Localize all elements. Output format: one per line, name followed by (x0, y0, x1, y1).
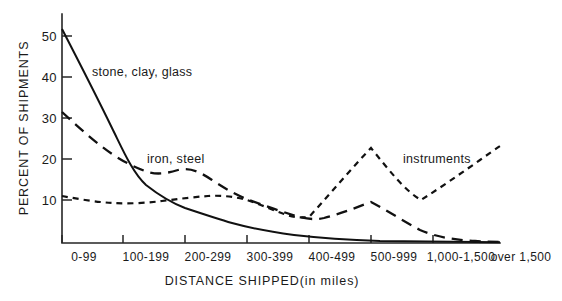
x-tick-label-7: over 1,500 (491, 250, 552, 264)
y-tick-label-10: 10 (42, 193, 57, 208)
x-tick-label-2: 200-299 (185, 250, 232, 264)
x-tick-label-6: 1,000-1,500 (427, 250, 495, 264)
series-label-instruments: instruments (403, 152, 471, 166)
series-label-iron-steel: iron, steel (147, 152, 205, 166)
series-line-stone-clay-glass (62, 29, 500, 242)
x-tick-label-5: 500-999 (371, 250, 418, 264)
y-tick-label-20: 20 (42, 152, 57, 167)
x-tick-label-4: 400-499 (309, 250, 356, 264)
series-line-iron-steel (62, 112, 500, 242)
y-tick-label-40: 40 (42, 70, 57, 85)
x-tick-label-3: 300-399 (247, 250, 294, 264)
chart-axes (62, 14, 500, 243)
line-chart: 10 20 30 40 50 0-99 100-199 200-299 300-… (0, 0, 562, 301)
y-tick-label-30: 30 (42, 111, 57, 126)
x-axis-title: DISTANCE SHIPPED(in miles) (165, 274, 360, 288)
y-axis-title: PERCENT OF SHIPMENTS (17, 41, 31, 216)
x-tick-label-1: 100-199 (123, 250, 170, 264)
x-tick-label-0: 0-99 (71, 250, 97, 264)
series-label-stone-clay-glass: stone, clay, glass (92, 65, 192, 79)
y-tick-label-50: 50 (42, 29, 57, 44)
chart-figure: 10 20 30 40 50 0-99 100-199 200-299 300-… (0, 0, 562, 301)
